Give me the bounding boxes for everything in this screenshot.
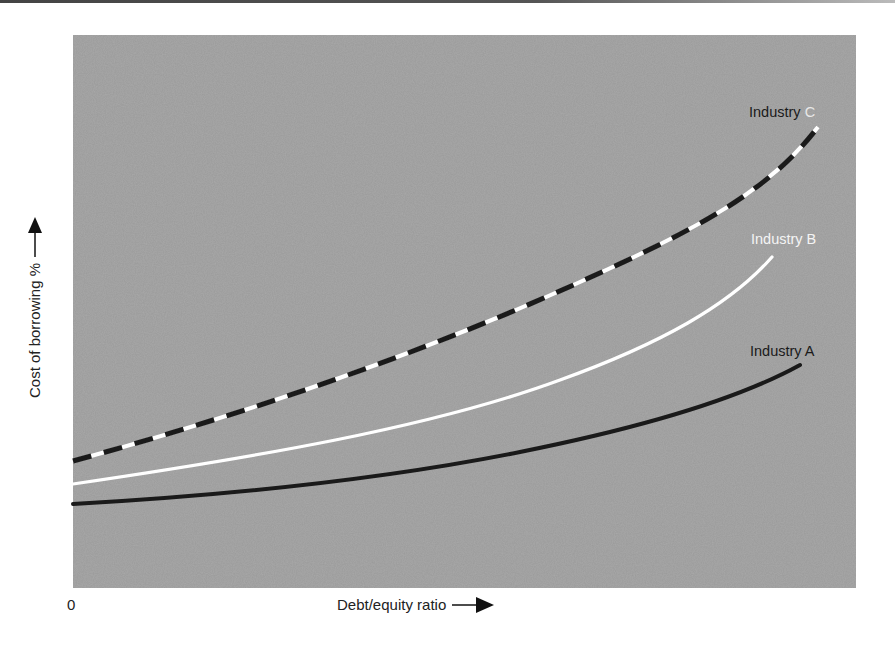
label-industry-c: Industry C	[749, 104, 815, 120]
label-industry-c-letter: C	[805, 104, 815, 120]
x-axis-label: Debt/equity ratio	[337, 596, 494, 613]
chart-svg	[0, 0, 895, 646]
plot-area	[73, 35, 856, 588]
label-industry-a: Industry A	[750, 343, 814, 359]
arrow-right-icon	[452, 597, 494, 613]
origin-label: 0	[67, 596, 75, 613]
y-axis-label-text: Cost of borrowing %	[26, 263, 43, 398]
label-industry-c-word: Industry	[749, 104, 801, 120]
x-axis-label-text: Debt/equity ratio	[337, 596, 446, 613]
y-axis-label: Cost of borrowing %	[26, 217, 43, 398]
label-industry-b: Industry B	[751, 231, 816, 247]
arrow-up-icon	[28, 217, 42, 257]
